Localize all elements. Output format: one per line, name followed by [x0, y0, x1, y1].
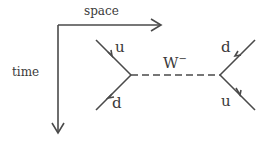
boson-symbol: W — [163, 54, 179, 72]
right-incoming-label: d — [221, 38, 231, 56]
right-incoming-arrow-icon — [235, 51, 241, 56]
axes — [52, 19, 161, 133]
left-incoming-quark-line — [96, 40, 131, 75]
space-label: space — [84, 4, 119, 18]
left-incoming-label: u — [115, 38, 125, 56]
feynman-diagram: space time u d W− d u — [0, 0, 274, 142]
left-outgoing-label: d — [112, 94, 122, 112]
time-label: time — [12, 65, 39, 79]
left-incoming-arrow-icon — [108, 50, 112, 56]
boson-label: W− — [163, 53, 187, 72]
right-outgoing-label: u — [221, 92, 231, 110]
boson-charge: − — [178, 53, 186, 64]
